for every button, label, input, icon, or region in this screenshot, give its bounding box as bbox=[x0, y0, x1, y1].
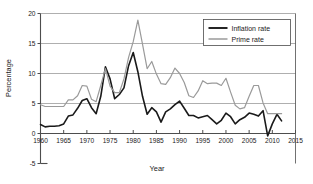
y-tick-label: 10 bbox=[28, 70, 36, 77]
y-tick-label: 20 bbox=[28, 10, 36, 17]
y-tick-label: 5 bbox=[32, 100, 36, 107]
x-tick-label: 1990 bbox=[172, 137, 187, 144]
x-tick-label: 1995 bbox=[195, 137, 210, 144]
x-tick-label: 1970 bbox=[80, 137, 95, 144]
chart-legend: Inflation ratePrime rate bbox=[204, 20, 291, 46]
x-tick-label: 1985 bbox=[149, 137, 164, 144]
x-tick-label: 1965 bbox=[56, 137, 71, 144]
x-axis-title: Year bbox=[150, 164, 165, 173]
x-tick-label: 2000 bbox=[219, 137, 234, 144]
x-tick-label: 1980 bbox=[126, 137, 141, 144]
x-tick-label: 1960 bbox=[33, 137, 48, 144]
chart-figure: 20151050-5 19601965197019751980198519901… bbox=[0, 0, 313, 184]
y-tick-label: 15 bbox=[28, 40, 36, 47]
x-tick-label: 2010 bbox=[265, 137, 280, 144]
legend-label: Prime rate bbox=[232, 36, 264, 43]
legend-label: Inflation rate bbox=[232, 25, 271, 32]
y-tick-label: -5 bbox=[30, 160, 36, 167]
y-axis-title: Percentage bbox=[4, 59, 13, 97]
x-tick-label: 2015 bbox=[288, 137, 303, 144]
x-tick-label: 1975 bbox=[103, 137, 118, 144]
line-chart: 20151050-5 19601965197019751980198519901… bbox=[0, 0, 313, 184]
x-tick-label: 2005 bbox=[242, 137, 257, 144]
